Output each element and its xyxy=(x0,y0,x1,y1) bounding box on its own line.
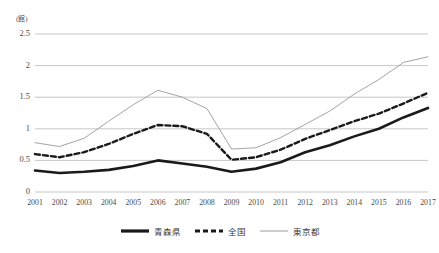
y-axis-tick-label: 0.5 xyxy=(8,154,30,164)
y-axis-tick-label: 1 xyxy=(8,123,30,133)
legend-item-aomori[interactable]: 青森県 xyxy=(120,225,181,237)
x-axis-tick-label: 2010 xyxy=(248,198,264,207)
series-line-0 xyxy=(35,108,428,173)
x-axis-tick-label: 2003 xyxy=(76,198,92,207)
legend-swatch-solid-thick-icon xyxy=(120,226,150,236)
y-axis-tick-label: 0 xyxy=(8,186,30,196)
legend-item-tokyo[interactable]: 東京都 xyxy=(259,225,320,237)
x-axis-tick-label: 2012 xyxy=(297,198,313,207)
x-axis-tick-label: 2008 xyxy=(199,198,215,207)
x-axis-tick-label: 2011 xyxy=(273,198,288,207)
legend-swatch-dashed-icon xyxy=(194,226,224,236)
y-axis-tick-label: 1.5 xyxy=(8,91,30,101)
x-axis-tick-label: 2005 xyxy=(125,198,141,207)
x-axis-tick-label: 2014 xyxy=(347,198,363,207)
x-axis-tick-label: 2013 xyxy=(322,198,338,207)
x-axis-tick-label: 2001 xyxy=(27,198,43,207)
series-line-2 xyxy=(35,57,428,149)
legend-label-tokyo: 東京都 xyxy=(293,225,320,237)
legend-swatch-solid-thin-icon xyxy=(259,226,289,236)
legend-item-zenkoku[interactable]: 全国 xyxy=(194,225,246,237)
y-axis-tick-label: 2.5 xyxy=(8,28,30,38)
legend-label-zenkoku: 全国 xyxy=(228,225,246,237)
y-axis-tick-label: 2 xyxy=(8,60,30,70)
series-line-1 xyxy=(35,93,428,160)
x-axis-tick-label: 2015 xyxy=(371,198,387,207)
x-axis-tick-label: 2016 xyxy=(396,198,412,207)
x-axis-tick-label: 2017 xyxy=(420,198,436,207)
plot-area xyxy=(0,0,439,253)
x-axis-tick-label: 2006 xyxy=(150,198,166,207)
legend-label-aomori: 青森県 xyxy=(154,225,181,237)
x-axis-tick-label: 2004 xyxy=(101,198,117,207)
x-axis-tick-label: 2009 xyxy=(224,198,240,207)
x-axis-tick-label: 2007 xyxy=(175,198,191,207)
chart-legend: 青森県 全国 東京都 xyxy=(0,225,439,237)
x-axis-tick-label: 2002 xyxy=(52,198,68,207)
line-chart: (館) 青森県 全国 東京都 00.511.522.52001200220032… xyxy=(0,0,439,253)
